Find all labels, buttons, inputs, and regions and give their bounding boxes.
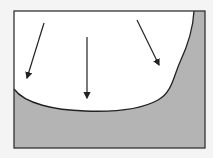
diagram-canvas: [0, 0, 213, 158]
